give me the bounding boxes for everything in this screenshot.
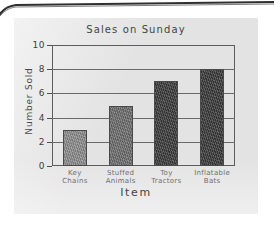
y-tick-label-8: 8	[39, 64, 45, 74]
bar-chart: Sales on Sunday Number Sold 0246810 Key …	[14, 18, 258, 214]
y-tick-label-6: 6	[39, 88, 45, 98]
y-tick-label-10: 10	[33, 40, 45, 50]
y-tick-0	[47, 166, 52, 167]
screenshot-root: Sales on Sunday Number Sold 0246810 Key …	[0, 0, 274, 226]
y-tick-6	[47, 93, 52, 94]
bar-3	[154, 81, 178, 166]
x-category-label-2: Stuffed Animals	[98, 169, 144, 185]
x-axis-label: Item	[14, 186, 258, 199]
x-category-label-1: Key Chains	[52, 169, 98, 185]
y-tick-2	[47, 142, 52, 143]
x-category-label-4: Inflatable Bats	[189, 169, 235, 185]
plot-area: 0246810 Key ChainsStuffed AnimalsToy Tra…	[52, 45, 235, 166]
y-axis-label: Number Sold	[24, 58, 34, 144]
bar-2	[109, 106, 133, 167]
worksheet-paper: Sales on Sunday Number Sold 0246810 Key …	[14, 18, 258, 214]
y-tick-label-4: 4	[39, 112, 45, 122]
bar-4	[200, 69, 224, 166]
y-tick-label-0: 0	[39, 161, 45, 171]
y-tick-8	[47, 69, 52, 70]
y-tick-4	[47, 118, 52, 119]
chart-title: Sales on Sunday	[14, 24, 258, 35]
bar-1	[63, 130, 87, 166]
x-category-label-3: Toy Tractors	[144, 169, 190, 185]
y-tick-10	[47, 45, 52, 46]
y-tick-label-2: 2	[39, 137, 45, 147]
